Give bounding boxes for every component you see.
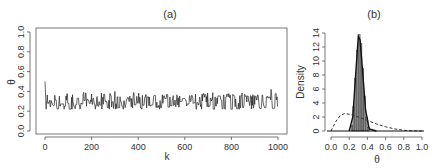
plot-b-y-label: Density	[295, 65, 306, 98]
plot-b-x-label: θ	[374, 154, 380, 165]
y-tick-label: 12	[311, 42, 321, 52]
prior-density-dashed-line	[331, 114, 422, 132]
y-tick-label: 0.0	[16, 125, 26, 138]
x-tick-label: 1000	[268, 142, 288, 152]
y-tick-label: 14	[311, 28, 321, 38]
x-tick-label: 0.8	[398, 142, 411, 152]
histogram-bar	[351, 125, 353, 131]
panel-a-title: (a)	[163, 8, 176, 20]
x-tick-label: 0.2	[343, 142, 356, 152]
plot-b-y-axis: 02468101214	[311, 28, 325, 134]
panel-b-density-plot: (b) 02468101214 0.00.20.40.60.81.0 θ Den…	[295, 8, 428, 165]
x-tick-label: 0	[42, 142, 47, 152]
x-tick-label: 0.0	[325, 142, 338, 152]
trace-line	[45, 82, 278, 110]
plot-a-x-axis: 02004006008001000	[42, 137, 288, 152]
figure: (a) 0.00.20.40.60.81.0 02004006008001000…	[0, 0, 442, 168]
plot-a-box	[36, 28, 287, 134]
y-tick-label: 0.2	[16, 105, 26, 118]
plot-a-x-label: k	[165, 151, 171, 162]
y-tick-label: 0.8	[16, 46, 26, 59]
y-tick-label: 10	[311, 56, 321, 66]
histogram-bar	[358, 34, 360, 131]
y-tick-label: 1.0	[16, 26, 26, 39]
y-tick-label: 0.4	[16, 85, 26, 98]
x-tick-label: 800	[224, 142, 239, 152]
y-tick-label: 6	[311, 86, 321, 91]
plot-b-x-axis: 0.00.20.40.60.81.0	[325, 137, 429, 152]
y-tick-label: 0	[311, 128, 321, 133]
x-tick-label: 1.0	[416, 142, 429, 152]
panel-b-title: (b)	[367, 8, 380, 20]
x-tick-label: 400	[131, 142, 146, 152]
y-tick-label: 0.6	[16, 65, 26, 78]
y-tick-label: 8	[311, 72, 321, 77]
y-tick-label: 2	[311, 114, 321, 119]
panel-a-trace-plot: (a) 0.00.20.40.60.81.0 02004006008001000…	[6, 8, 288, 162]
x-tick-label: 0.4	[361, 142, 374, 152]
plot-a-y-label: θ	[6, 79, 17, 85]
x-tick-label: 600	[177, 142, 192, 152]
plot-a-y-axis: 0.00.20.40.60.81.0	[16, 26, 30, 138]
x-tick-label: 0.6	[379, 142, 392, 152]
y-tick-label: 4	[311, 100, 321, 105]
x-tick-label: 200	[84, 142, 99, 152]
